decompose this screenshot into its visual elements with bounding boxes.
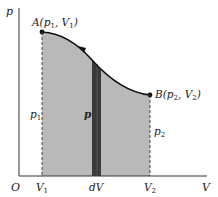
p1-label: p1	[30, 108, 41, 122]
pv-diagram: p V O A(p1, V1) B(p2, V2) p1 p2 p V1 dV …	[0, 0, 218, 197]
origin-label: O	[11, 181, 20, 194]
y-axis-label: p	[6, 5, 13, 18]
v1-tick-label: V1	[36, 181, 48, 195]
point-b-label: B(p2, V2)	[154, 88, 201, 102]
x-axis-label: V	[202, 181, 211, 194]
p2-label: p2	[154, 125, 165, 139]
v2-tick-label: V2	[144, 181, 156, 195]
dv-tick-label: dV	[89, 181, 105, 193]
dv-strip	[92, 60, 101, 176]
p-strip-label: p	[84, 108, 92, 120]
point-a-label: A(p1, V1)	[31, 16, 78, 30]
